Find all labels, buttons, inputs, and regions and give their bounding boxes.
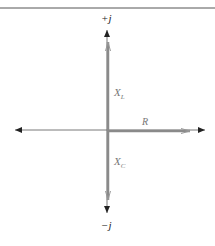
xl-label: XL [113,86,125,101]
minus-j-label: −j [101,219,111,231]
plus-j-label: +j [101,12,111,24]
phasor-diagram: +j −j XL R XC [0,0,215,246]
xc-label: XC [113,155,126,170]
r-label: R [141,116,148,127]
